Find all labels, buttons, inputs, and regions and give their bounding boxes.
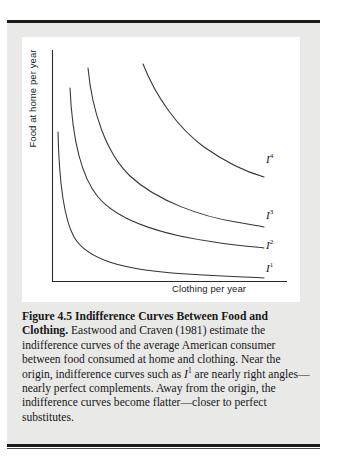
curve-i4 [143,64,264,177]
curve-label-i3: I3 [266,209,273,221]
curve-label-i4-sup: 4 [270,152,274,160]
caption-symbol-i1: I1 [184,368,192,381]
curve-i2 [70,88,264,248]
bottom-rule-hairline [7,448,320,449]
chart-svg [22,37,300,302]
curve-label-i2-sup: 2 [270,238,274,246]
figure-caption: Figure 4.5 Indifference Curves Between F… [22,310,312,425]
figure-card: Food at home per year Clothing per year … [22,37,300,302]
y-axis-label: Food at home per year [27,40,38,158]
indifference-curve-chart: Food at home per year Clothing per year … [22,37,300,302]
top-rule [7,20,320,23]
curve-label-i4: I4 [266,153,273,165]
bottom-rule [7,444,320,447]
curve-label-i2: I2 [266,239,273,251]
curve-i1 [58,132,264,278]
curve-i3 [88,68,264,227]
curve-label-i3-sup: 3 [270,208,274,216]
indifference-curves [58,64,264,278]
x-axis-label: Clothing per year [172,283,246,294]
textbook-figure-page: Food at home per year Clothing per year … [0,0,337,466]
curve-label-i1-sup: 1 [270,261,274,269]
curve-label-i1: I1 [266,262,273,274]
